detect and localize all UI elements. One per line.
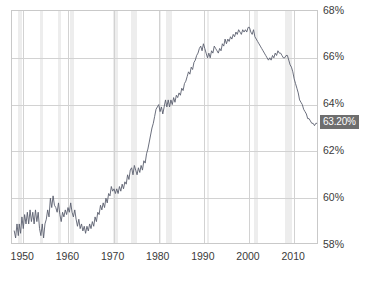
y-axis-tick-label: 68%: [323, 5, 344, 16]
y-axis-tick-label: 62%: [323, 145, 344, 156]
x-axis-tick-label: 2000: [236, 250, 259, 262]
x-axis-tick-label: 2010: [281, 250, 304, 262]
x-axis-tick-label: 1990: [191, 250, 214, 262]
last-value-badge: 63.20%: [320, 115, 359, 129]
x-axis-tick-label: 1950: [11, 250, 34, 262]
y-axis-tick-label: 66%: [323, 51, 344, 62]
series-line-labor-force-participation-rate: [14, 27, 318, 238]
y-axis-tick-label: 60%: [323, 192, 344, 203]
series-line-layer: [12, 11, 318, 244]
x-axis-tick-label: 1980: [146, 250, 169, 262]
x-axis-tick-label: 1970: [101, 250, 124, 262]
x-axis-tick-label: 1960: [56, 250, 79, 262]
y-axis-tick-label: 58%: [323, 239, 344, 250]
y-axis-tick-label: 64%: [323, 98, 344, 109]
plot-area: [11, 10, 318, 244]
labor-force-participation-chart: 58%60%62%64%66%68% 195019601970198019902…: [0, 0, 371, 284]
